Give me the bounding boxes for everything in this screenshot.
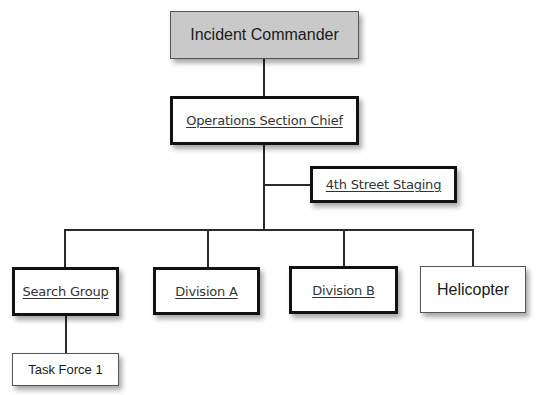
connector-division-a: [207, 229, 209, 267]
task-force-1-box: Task Force 1: [12, 353, 119, 386]
incident-commander-label: Incident Commander: [190, 26, 339, 44]
search-group-label: Search Group: [23, 284, 109, 299]
helicopter-box: Helicopter: [420, 266, 526, 313]
search-group-box: Search Group: [12, 267, 119, 316]
helicopter-label: Helicopter: [437, 281, 509, 299]
division-a-label: Division A: [175, 284, 238, 299]
operations-section-chief-label: Operations Section Chief: [186, 113, 343, 128]
connector-staging-branch: [263, 184, 310, 186]
connector-helicopter: [472, 229, 474, 266]
connector-task-force: [65, 316, 67, 353]
connector-search-group: [64, 229, 66, 267]
connector-division-b: [343, 229, 345, 266]
division-b-box: Division B: [289, 266, 398, 314]
connector-ops-trunk: [263, 145, 265, 230]
connector-units-bar: [64, 229, 473, 231]
operations-section-chief-box: Operations Section Chief: [170, 96, 359, 145]
incident-commander-box: Incident Commander: [170, 11, 359, 59]
staging-label: 4th Street Staging: [326, 177, 441, 192]
connector-ic-to-ops: [263, 59, 265, 96]
staging-box: 4th Street Staging: [310, 166, 457, 203]
task-force-1-label: Task Force 1: [28, 362, 102, 377]
division-b-label: Division B: [312, 283, 375, 298]
division-a-box: Division A: [153, 267, 260, 315]
